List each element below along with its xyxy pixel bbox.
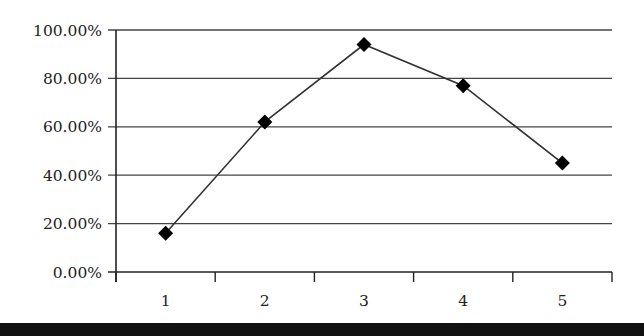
footer-bar	[0, 323, 644, 336]
x-tick-label: 3	[359, 292, 369, 310]
y-tick-label: 60.00%	[43, 118, 102, 136]
y-axis-tick-labels: 0.00%20.00%40.00%60.00%80.00%100.00%	[33, 22, 102, 282]
gridlines	[108, 30, 612, 272]
diamond-marker-icon	[555, 156, 570, 171]
line-chart: 0.00%20.00%40.00%60.00%80.00%100.00% 123…	[0, 0, 644, 336]
x-tick-label: 2	[260, 292, 270, 310]
y-tick-label: 80.00%	[43, 70, 102, 88]
x-tick-label: 5	[557, 292, 567, 310]
y-tick-label: 0.00%	[53, 264, 102, 282]
axes	[116, 30, 612, 282]
chart-canvas: 0.00%20.00%40.00%60.00%80.00%100.00% 123…	[0, 0, 644, 336]
y-tick-label: 20.00%	[43, 215, 102, 233]
x-tick-label: 4	[458, 292, 468, 310]
data-series	[158, 37, 570, 241]
diamond-marker-icon	[357, 37, 372, 52]
y-tick-label: 100.00%	[33, 22, 102, 40]
x-tick-label: 1	[161, 292, 171, 310]
diamond-marker-icon	[456, 78, 471, 93]
x-axis-tick-labels: 12345	[161, 292, 568, 310]
y-tick-label: 40.00%	[43, 167, 102, 185]
series-line	[166, 45, 563, 234]
